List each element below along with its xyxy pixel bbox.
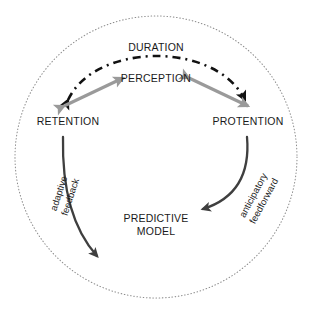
node-label-retention: RETENTION: [18, 115, 118, 128]
predictive-model-line-2: MODEL: [137, 225, 175, 237]
node-label-protention: PROTENTION: [196, 115, 300, 128]
node-label-duration: DURATION: [0, 41, 312, 54]
diagram-canvas: DURATION PERCEPTION RETENTION PROTENTION…: [0, 0, 312, 315]
predictive-model-line-1: PREDICTIVE: [123, 212, 188, 224]
anticipatory-feedforward-curve: [203, 137, 247, 209]
outer-circle: [15, 16, 297, 298]
node-label-perception: PERCEPTION: [0, 72, 312, 85]
node-label-predictive-model: PREDICTIVE MODEL: [96, 212, 216, 238]
